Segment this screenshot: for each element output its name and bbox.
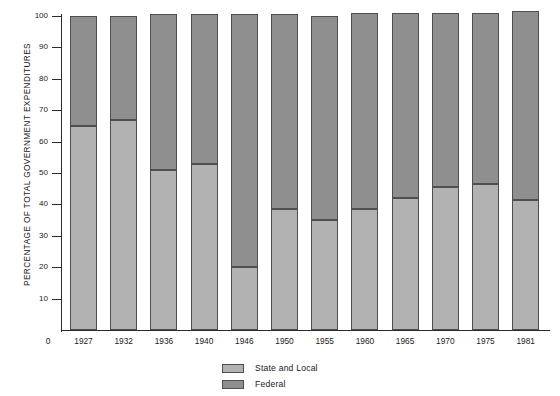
y-axis-tick <box>52 173 62 174</box>
y-axis-tick-label: 80 <box>6 74 48 83</box>
y-axis-tick-label: 50 <box>6 168 48 177</box>
bar-segment-federal-1965 <box>392 13 419 198</box>
x-axis-zero-label: 0 <box>36 336 60 346</box>
y-axis-tick <box>52 47 62 48</box>
plot-area <box>62 16 550 330</box>
y-axis-title: PERCENTAGE OF TOTAL GOVERNMENT EXPENDITU… <box>23 10 32 320</box>
y-axis-tick <box>52 299 62 300</box>
y-axis-tick-label: 60 <box>6 137 48 146</box>
bar-segment-federal-1950 <box>271 14 298 209</box>
bar-segment-federal-1960 <box>351 13 378 209</box>
bar-segment-state-and-local-1955 <box>311 220 338 330</box>
y-axis-tick <box>52 110 62 111</box>
y-axis-tick-label: 70 <box>6 105 48 114</box>
bar-segment-federal-1955 <box>311 16 338 220</box>
legend-swatch-federal <box>222 380 244 389</box>
bar-segment-federal-1940 <box>191 14 218 163</box>
y-axis-tick-label: 10 <box>6 294 48 303</box>
legend-label-state-and-local: State and Local <box>255 363 318 373</box>
y-axis-tick-label: 40 <box>6 199 48 208</box>
legend-label-federal: Federal <box>255 379 286 389</box>
y-axis-tick-label: 100 <box>6 11 48 20</box>
bar-segment-state-and-local-1946 <box>231 267 258 330</box>
y-axis-tick <box>52 204 62 205</box>
legend-item-federal: Federal <box>222 376 318 392</box>
bar-segment-federal-1927 <box>70 16 97 126</box>
bar-segment-federal-1970 <box>432 13 459 187</box>
bar-segment-state-and-local-1932 <box>110 120 137 330</box>
bar-segment-federal-1981 <box>512 11 539 199</box>
legend-swatch-state-and-local <box>222 364 244 373</box>
bar-segment-state-and-local-1950 <box>271 209 298 330</box>
x-axis-label-1981: 1981 <box>502 336 550 346</box>
bar-segment-state-and-local-1981 <box>512 200 539 330</box>
y-axis-tick <box>52 267 62 268</box>
bar-segment-state-and-local-1975 <box>472 184 499 330</box>
bar-segment-federal-1975 <box>472 13 499 184</box>
bar-segment-federal-1946 <box>231 14 258 267</box>
x-axis-line <box>61 330 550 331</box>
stacked-bar-chart: PERCENTAGE OF TOTAL GOVERNMENT EXPENDITU… <box>0 0 560 396</box>
y-axis-tick-label: 30 <box>6 231 48 240</box>
y-axis-tick <box>52 142 62 143</box>
bar-segment-state-and-local-1965 <box>392 198 419 330</box>
bar-segment-state-and-local-1936 <box>150 170 177 330</box>
y-axis-tick <box>52 236 62 237</box>
y-axis-tick-label: 20 <box>6 262 48 271</box>
bar-segment-state-and-local-1940 <box>191 164 218 330</box>
bar-segment-federal-1936 <box>150 14 177 169</box>
y-axis-tick <box>52 79 62 80</box>
bar-segment-state-and-local-1960 <box>351 209 378 330</box>
y-axis-tick-label: 90 <box>6 42 48 51</box>
legend-item-state-and-local: State and Local <box>222 360 318 376</box>
y-axis-tick <box>52 16 62 17</box>
chart-legend: State and Local Federal <box>222 360 318 392</box>
bar-segment-state-and-local-1927 <box>70 126 97 330</box>
bar-segment-federal-1932 <box>110 16 137 120</box>
bar-segment-state-and-local-1970 <box>432 187 459 330</box>
